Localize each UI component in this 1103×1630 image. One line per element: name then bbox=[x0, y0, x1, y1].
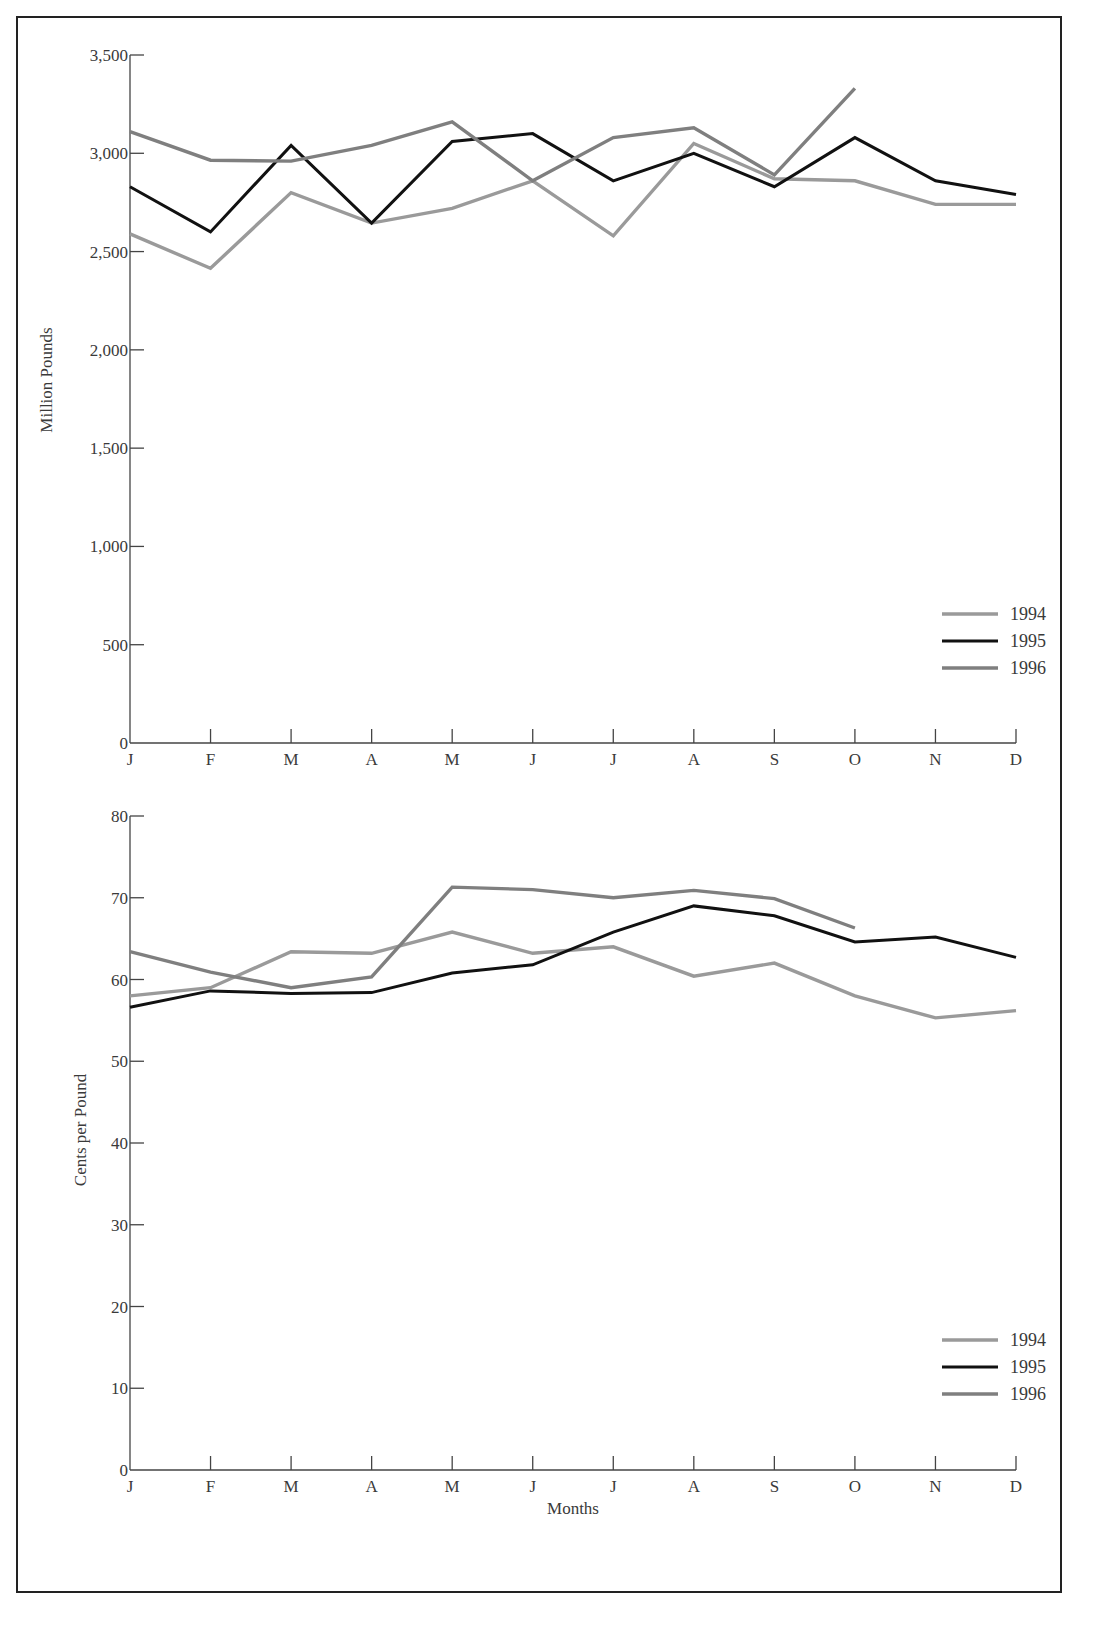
legend-label-1994: 1994 bbox=[1010, 604, 1046, 624]
y-tick-label: 1,500 bbox=[90, 439, 128, 458]
x-tick-label: D bbox=[1010, 1477, 1022, 1496]
x-tick-label: J bbox=[529, 750, 536, 769]
y-tick-label: 3,000 bbox=[90, 144, 128, 163]
chart-panel-2: 01020304050607080JFMAMJJASONDCents per P… bbox=[71, 807, 1046, 1518]
x-tick-label: M bbox=[284, 1477, 299, 1496]
x-tick-label: F bbox=[206, 1477, 215, 1496]
x-tick-label: O bbox=[849, 1477, 861, 1496]
y-tick-label: 40 bbox=[111, 1134, 128, 1153]
y-tick-label: 2,500 bbox=[90, 243, 128, 262]
series-line-1996 bbox=[130, 887, 855, 988]
x-tick-label: N bbox=[929, 1477, 941, 1496]
y-tick-label: 50 bbox=[111, 1052, 128, 1071]
x-tick-label: D bbox=[1010, 750, 1022, 769]
legend-label-1995: 1995 bbox=[1010, 631, 1046, 651]
legend-label-1996: 1996 bbox=[1010, 1384, 1046, 1404]
y-tick-label: 500 bbox=[103, 636, 129, 655]
x-tick-label: J bbox=[610, 1477, 617, 1496]
x-tick-label: J bbox=[127, 1477, 134, 1496]
x-tick-label: A bbox=[365, 1477, 378, 1496]
x-tick-label: S bbox=[770, 1477, 779, 1496]
x-axis-title: Months bbox=[547, 1499, 599, 1518]
series-line-1995 bbox=[130, 906, 1016, 1007]
x-tick-label: A bbox=[365, 750, 378, 769]
x-tick-label: A bbox=[688, 750, 701, 769]
x-tick-label: O bbox=[849, 750, 861, 769]
y-axis-title: Million Pounds bbox=[37, 327, 56, 432]
y-tick-label: 70 bbox=[111, 889, 128, 908]
x-tick-label: J bbox=[127, 750, 134, 769]
legend-label-1996: 1996 bbox=[1010, 658, 1046, 678]
legend: 199419951996 bbox=[942, 1330, 1046, 1404]
y-axis-title: Cents per Pound bbox=[71, 1073, 90, 1186]
series-line-1994 bbox=[130, 932, 1016, 1018]
x-tick-label: M bbox=[284, 750, 299, 769]
x-tick-label: M bbox=[445, 750, 460, 769]
legend: 199419951996 bbox=[942, 604, 1046, 678]
legend-label-1994: 1994 bbox=[1010, 1330, 1046, 1350]
legend-label-1995: 1995 bbox=[1010, 1357, 1046, 1377]
x-tick-label: S bbox=[770, 750, 779, 769]
y-tick-label: 2,000 bbox=[90, 341, 128, 360]
y-tick-label: 30 bbox=[111, 1216, 128, 1235]
x-tick-label: J bbox=[610, 750, 617, 769]
x-tick-label: M bbox=[445, 1477, 460, 1496]
y-tick-label: 20 bbox=[111, 1298, 128, 1317]
x-tick-label: J bbox=[529, 1477, 536, 1496]
y-tick-label: 1,000 bbox=[90, 537, 128, 556]
x-tick-label: A bbox=[688, 1477, 701, 1496]
y-tick-label: 80 bbox=[111, 807, 128, 826]
y-tick-label: 10 bbox=[111, 1379, 128, 1398]
y-tick-label: 3,500 bbox=[90, 46, 128, 65]
x-tick-label: F bbox=[206, 750, 215, 769]
y-tick-label: 60 bbox=[111, 971, 128, 990]
chart-canvas: 05001,0001,5002,0002,5003,0003,500JFMAMJ… bbox=[0, 0, 1103, 1630]
chart-panel-1: 05001,0001,5002,0002,5003,0003,500JFMAMJ… bbox=[37, 46, 1046, 769]
x-tick-label: N bbox=[929, 750, 941, 769]
